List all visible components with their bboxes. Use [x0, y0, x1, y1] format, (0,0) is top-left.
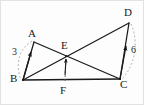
segment-BD: [23, 23, 129, 80]
vertex-label-D: D: [124, 7, 132, 18]
vertex-dot-E: [65, 55, 67, 57]
segment-BC: [23, 79, 120, 80]
vertex-label-A: A: [28, 28, 36, 39]
measure-label-left: 3: [12, 47, 17, 57]
vertex-label-F: F: [60, 85, 66, 96]
geometry-figure: A B C D E F 3 6: [0, 0, 144, 105]
vertex-label-B: B: [10, 73, 17, 84]
vertex-label-C: C: [120, 79, 127, 90]
vector-CD-arrow: [120, 46, 126, 79]
segment-AC: [34, 42, 120, 79]
vertex-label-E: E: [61, 40, 68, 51]
vertex-dot-B: [22, 79, 24, 81]
vector-FE-arrow: [65, 59, 66, 75]
measure-label-right: 6: [131, 45, 136, 55]
